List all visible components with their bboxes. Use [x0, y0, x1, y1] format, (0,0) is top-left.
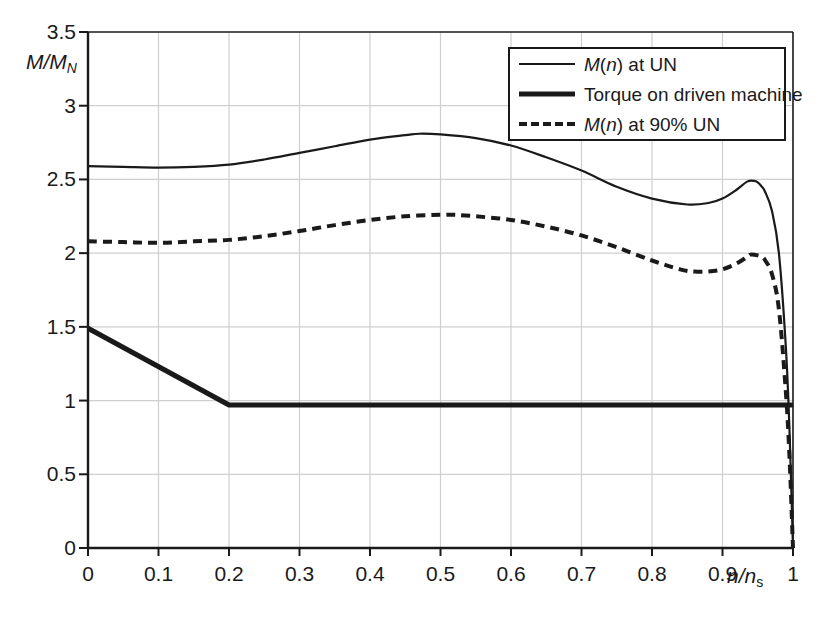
x-axis-tick-label: 1	[787, 562, 799, 586]
legend-swatch-bar	[519, 122, 575, 126]
x-axis-tick-label: 0.1	[144, 562, 173, 586]
chart-figure: 00.511.522.533.5 00.10.20.30.40.50.60.70…	[0, 0, 826, 627]
x-axis-tick-label: 0.7	[567, 562, 596, 586]
x-axis-tick-label: 0.6	[496, 562, 525, 586]
y-axis-tick-label: 0	[20, 536, 76, 560]
legend-item: M(n) at UN	[510, 49, 784, 79]
legend-item-label: Torque on driven machine	[584, 85, 803, 104]
legend-swatch-thick-solid	[519, 87, 575, 101]
y-axis-tick-label: 1.5	[20, 315, 76, 339]
x-axis-title-subscript: s	[756, 574, 763, 590]
legend-item: Torque on driven machine	[510, 79, 784, 109]
y-axis-title-main: M/M	[26, 50, 67, 73]
y-axis-tick-label: 3	[20, 94, 76, 118]
x-axis-title: n/ns	[727, 564, 763, 588]
x-axis-tick-label: 0.5	[426, 562, 455, 586]
legend-item-label: M(n) at 90% UN	[584, 115, 720, 134]
x-axis-tick-label: 0.3	[285, 562, 314, 586]
y-axis-tick-label: 2.5	[20, 167, 76, 191]
x-axis-tick-label: 0.4	[355, 562, 384, 586]
y-axis-title-subscript: N	[67, 60, 77, 76]
y-axis-tick-label: 3.5	[20, 20, 76, 44]
legend-swatch-bar	[519, 92, 575, 97]
legend-swatch-dashed	[519, 117, 575, 131]
legend-item: M(n) at 90% UN	[510, 109, 784, 139]
y-axis-tick-label: 0.5	[20, 462, 76, 486]
legend-swatch-thin-solid	[519, 57, 575, 71]
y-axis-title: M/MN	[26, 50, 77, 74]
chart-legend: M(n) at UNTorque on driven machineM(n) a…	[508, 47, 786, 141]
y-axis-tick-label: 2	[20, 241, 76, 265]
x-axis-tick-label: 0	[82, 562, 94, 586]
legend-item-label: M(n) at UN	[584, 55, 677, 74]
legend-swatch-bar	[519, 63, 575, 65]
x-axis-tick-label: 0.8	[637, 562, 666, 586]
x-axis-title-main: n/n	[727, 564, 756, 587]
y-axis-tick-label: 1	[20, 389, 76, 413]
x-axis-tick-label: 0.2	[214, 562, 243, 586]
